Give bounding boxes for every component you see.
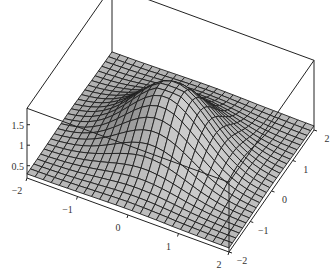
y-tick-label: −2 xyxy=(237,255,248,266)
x-tick xyxy=(178,234,179,237)
x-tick xyxy=(77,197,78,200)
surface-plot: −2−1012 −2−1012 0.511.5 xyxy=(0,0,332,279)
z-tick-label: 1.5 xyxy=(12,120,25,131)
x-tick-label: 2 xyxy=(217,259,222,270)
y-tick xyxy=(272,191,275,192)
y-tick xyxy=(250,222,253,223)
z-tick-label: 0.5 xyxy=(12,161,25,172)
x-tick-label: −1 xyxy=(62,204,73,215)
y-tick xyxy=(229,252,232,253)
y-tick-label: 0 xyxy=(282,194,287,205)
x-tick xyxy=(127,215,128,218)
x-tick-label: −2 xyxy=(12,185,23,196)
x-tick-label: 1 xyxy=(166,241,171,252)
y-tick xyxy=(293,161,296,162)
y-tick xyxy=(314,130,317,131)
x-tick-label: 0 xyxy=(116,222,121,233)
x-tick xyxy=(26,178,27,181)
y-tick-label: 1 xyxy=(303,164,308,175)
y-tick-label: 2 xyxy=(325,133,330,144)
z-tick-label: 1 xyxy=(19,140,24,151)
y-tick-label: −1 xyxy=(258,225,269,236)
surface-mesh xyxy=(27,52,314,248)
